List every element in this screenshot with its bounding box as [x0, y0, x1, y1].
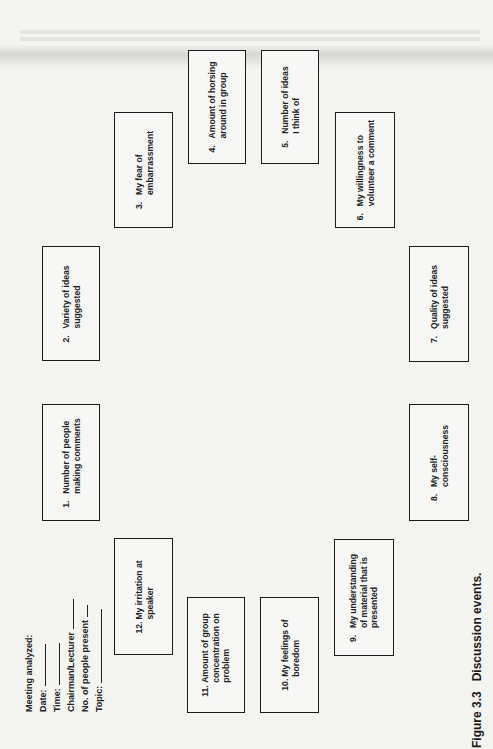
event-label: 4.Amount of horsing around in group [207, 62, 228, 153]
chairman-blank-line[interactable] [73, 599, 74, 629]
event-label: 9.My understanding of material that is p… [348, 553, 380, 641]
time-blank-line[interactable] [59, 643, 60, 685]
event-label: 12.My irritation at speaker [133, 560, 154, 633]
event-label: 6.My willingness to volunteer a comment [355, 120, 376, 220]
event-label: 5.Number of ideas I think of [280, 66, 301, 147]
event-box-1: 1.Number of people making comments [42, 404, 100, 521]
event-label: 11.Amount of group concentration on prob… [200, 613, 232, 697]
event-label: 3.My fear of embarrassment [133, 131, 154, 209]
event-label: 7.Quality of ideas suggested [429, 265, 450, 343]
people-present-blank-line[interactable] [87, 605, 88, 617]
meeting-form: Meeting analyzed: Date: Time: Chairman/L… [14, 600, 114, 712]
scan-shadow-band [0, 44, 493, 70]
event-box-5: 5.Number of ideas I think of [261, 50, 319, 164]
event-box-3: 3.My fear of embarrassment [114, 112, 173, 228]
event-box-10: 10.My feelings of boredom [260, 597, 319, 713]
event-box-6: 6.My willingness to volunteer a comment [335, 112, 395, 228]
bleed-through-text [20, 30, 480, 34]
event-box-12: 12.My irritation at speaker [114, 538, 173, 655]
date-blank-line[interactable] [45, 644, 46, 686]
event-box-9: 9.My understanding of material that is p… [334, 539, 394, 656]
topic-blank-line[interactable] [101, 609, 102, 683]
event-label: 10.My feelings of boredom [279, 619, 300, 690]
event-label: 8.My self- consciousness [429, 424, 450, 500]
event-box-2: 2.Variety of ideas suggested [42, 246, 100, 361]
figure-caption: Figure 3.3Discussion events. [470, 573, 484, 748]
event-box-11: 11.Amount of group concentration on prob… [187, 597, 245, 713]
event-box-8: 8.My self- consciousness [409, 404, 469, 521]
form-field-topic: Topic: [94, 609, 104, 712]
event-box-4: 4.Amount of horsing around in group [188, 50, 246, 164]
event-label: 1.Number of people making comments [61, 418, 82, 507]
form-heading: Meeting analyzed: [24, 634, 34, 712]
form-field-people-present: No. of people present [80, 605, 90, 712]
form-field-date: Date: [38, 644, 48, 712]
event-label: 2.Variety of ideas suggested [61, 265, 82, 342]
event-box-7: 7.Quality of ideas suggested [409, 246, 469, 362]
form-field-chairman: Chairman/Lecturer [66, 599, 76, 712]
form-field-time: Time: [52, 643, 62, 712]
bleed-through-text [20, 37, 480, 41]
